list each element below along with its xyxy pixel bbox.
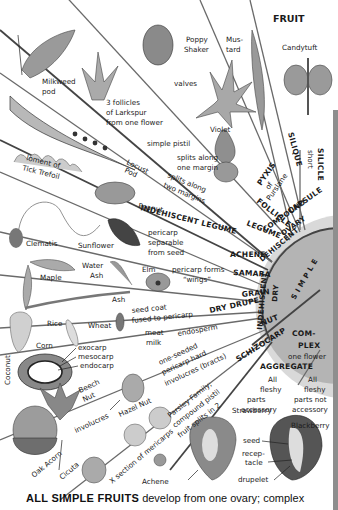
label-wings-1: pericarp forms: [172, 265, 225, 274]
cat-silicle: SILICLE: [316, 148, 325, 181]
label-recep: recep-: [242, 449, 265, 458]
label-sunflower: Sunflower: [78, 241, 114, 250]
label-involucres: involucres: [73, 411, 110, 435]
footer-bold: ALL SIMPLE FRUITS: [26, 492, 139, 504]
label-maple: Maple: [40, 273, 62, 282]
hub-complex-1: COM-: [292, 329, 316, 338]
label-pericarp-sep-3: from seed: [148, 248, 184, 257]
label-exocarp: exocarp: [78, 343, 107, 352]
label-poppy-shaker: Shaker: [184, 45, 209, 54]
label-blackberry: Blackberry: [291, 421, 330, 430]
label-pericarp-sep-1: pericarp: [148, 228, 178, 237]
label-wings-2: “wings”: [183, 275, 211, 284]
fruit-classification-diagram: FRUIT S I M P L E DEHISCENT INDEHISCENT …: [0, 0, 338, 510]
label-candytuft: Candytuft: [282, 43, 318, 52]
hazel-nut-illustration: [122, 374, 144, 402]
label-larkspur-3: from one flower: [106, 118, 163, 127]
label-water: Water: [82, 261, 103, 270]
label-poppy: Poppy: [186, 35, 209, 44]
label-all-2: All: [308, 375, 317, 384]
label-accessory-2: accessory: [292, 405, 329, 414]
cat-capsule: CAPSULE: [286, 185, 324, 215]
label-achene: Achene: [142, 477, 169, 486]
peanut-illustration: [95, 182, 135, 204]
label-fleshy-2: fleshy: [304, 385, 326, 394]
label-ash: Ash: [112, 295, 125, 304]
cat-aggregate-note: one flower: [288, 352, 326, 361]
label-parts-1: parts: [247, 395, 266, 404]
achene-illustration: [154, 454, 166, 466]
label-corn: Corn: [36, 341, 53, 350]
label-coconut: Coconut: [3, 355, 12, 385]
cat-achene: ACHENE: [230, 250, 266, 259]
elm-illustration: [146, 273, 170, 291]
wheat-illustration: [116, 313, 124, 331]
label-parts-not: parts not: [294, 395, 327, 404]
hub-complex-2: PLEX: [298, 341, 320, 350]
label-endocarp: endocarp: [80, 361, 114, 370]
violet-capsule-illustration: [196, 60, 256, 128]
cicuta-illustration: [82, 457, 106, 483]
corn-kernel-illustration: [10, 312, 32, 352]
poppy-illustration: [143, 25, 173, 65]
label-milkweed-pod: pod: [42, 87, 56, 96]
cat-silicle-note: short: [306, 150, 315, 169]
label-one-margin-1: splits along: [177, 153, 218, 162]
label-drupelet: drupelet: [238, 475, 268, 484]
label-endosperm: endosperm: [177, 322, 218, 338]
label-mustard-1: Mus-: [226, 35, 244, 44]
cat-aggregate: AGGREGATE: [260, 362, 313, 371]
hub-dry: DRY: [270, 284, 281, 302]
label-valves: valves: [174, 79, 197, 88]
label-water-ash: Ash: [90, 271, 103, 280]
label-elm: Elm: [142, 265, 156, 274]
label-meat: meat: [145, 328, 164, 337]
label-mustard-2: tard: [226, 45, 241, 54]
mustard-silique-illustration: [252, 30, 265, 130]
label-cicuta: Cicuta: [58, 460, 81, 482]
footer-rest: develop from one ovary; complex: [139, 492, 304, 504]
label-mesocarp: mesocarp: [78, 352, 114, 361]
candytuft-illustration: [284, 58, 332, 115]
coconut-illustration: [18, 354, 72, 390]
cat-samara: SAMARA: [233, 268, 271, 279]
label-accessory-1: accessory: [241, 405, 278, 414]
label-milkweed: Milkweed: [42, 77, 76, 86]
footer-caption: ALL SIMPLE FRUITS develop from one ovary…: [26, 492, 304, 504]
label-all-1: All: [268, 375, 277, 384]
diagram-title: FRUIT: [273, 13, 305, 24]
page-edge-shadow: [333, 110, 338, 510]
label-violet: Violet: [210, 125, 231, 134]
oak-acorn-illustration: [13, 406, 57, 455]
label-larkspur-2: of Larkspur: [106, 108, 147, 117]
label-tacle: tacle: [245, 458, 263, 467]
label-wheat: Wheat: [88, 321, 111, 330]
label-one-margin-2: one margin: [177, 163, 218, 172]
label-pericarp-sep-2: separable: [148, 238, 184, 247]
label-clematis: Clematis: [26, 239, 58, 248]
label-larkspur-1: 3 follicles: [106, 98, 140, 107]
label-fleshy-1: fleshy: [260, 385, 282, 394]
larkspur-illustration: [82, 52, 118, 100]
label-simple-pistil: simple pistil: [147, 139, 190, 148]
label-seed: seed: [243, 436, 260, 445]
label-milk: milk: [146, 338, 162, 347]
label-rice: Rice: [47, 319, 63, 328]
